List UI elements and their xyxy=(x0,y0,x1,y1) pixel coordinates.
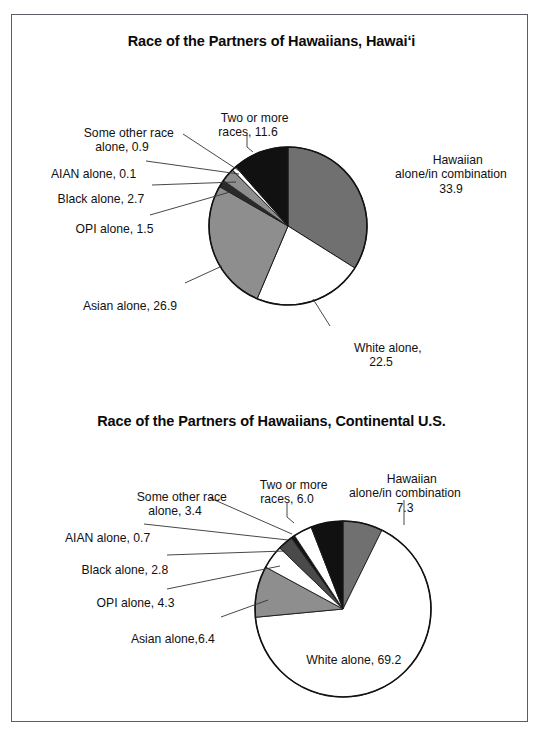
page-canvas: Race of the Partners of Hawaiians, Hawai… xyxy=(0,0,543,743)
label-text: Some other race alone, 3.4 xyxy=(137,490,227,519)
label-text: White alone, 22.5 xyxy=(354,341,422,370)
label-hawaiian-hawaii: Hawaiian alone/in combination 33.9 xyxy=(376,138,526,211)
label-text: Two or more races, 11.6 xyxy=(218,111,288,140)
label-text: Hawaiian alone/in combination 33.9 xyxy=(395,153,507,196)
label-text: Asian alone,6.4 xyxy=(131,632,215,646)
label-white-continental: White alone, 69.2 xyxy=(282,638,412,682)
pie-chart-hawaii xyxy=(205,143,371,309)
label-text: White alone, 69.2 xyxy=(306,653,401,667)
pie-hawaii-svg xyxy=(205,143,371,309)
label-asian-hawaii: Asian alone, 26.9 xyxy=(70,284,210,328)
label-text: Black alone, 2.8 xyxy=(82,563,169,577)
label-text: AIAN alone, 0.7 xyxy=(65,531,150,545)
label-text: Black alone, 2.7 xyxy=(58,192,145,206)
label-two-or-more-races-hawaii: Two or more races, 11.6 xyxy=(198,96,298,154)
label-hawaiian-continental: Hawaiian alone/in combination 7.3 xyxy=(330,457,480,530)
label-asian-continental: Asian alone,6.4 xyxy=(118,617,258,661)
label-text: Some other race alone, 0.9 xyxy=(84,126,174,155)
label-text: Asian alone, 26.9 xyxy=(83,299,177,313)
chart-title-continental: Race of the Partners of Hawaiians, Conti… xyxy=(0,413,543,429)
label-text: OPI alone, 4.3 xyxy=(97,596,175,610)
label-opi-hawaii: OPI alone, 1.5 xyxy=(62,207,182,251)
label-two-or-more-races-continental: Two or more races, 6.0 xyxy=(237,463,337,521)
label-text: Hawaiian alone/in combination 7.3 xyxy=(349,472,461,515)
chart-title-hawaii: Race of the Partners of Hawaiians, Hawai… xyxy=(0,33,543,49)
label-text: Two or more races, 6.0 xyxy=(260,478,328,507)
label-text: OPI alone, 1.5 xyxy=(76,222,154,236)
label-white-hawaii: White alone, 22.5 xyxy=(326,326,436,384)
